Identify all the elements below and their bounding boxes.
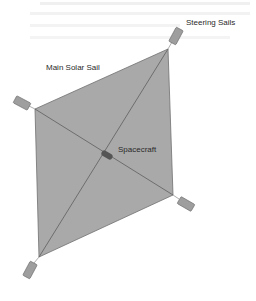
label-steering-sails: Steering Sails — [186, 18, 235, 27]
label-spacecraft: Spacecraft — [118, 145, 157, 154]
steering-sail-right — [177, 197, 195, 212]
tether-top — [168, 42, 172, 49]
tether-right — [173, 195, 179, 199]
tether-bottom — [34, 257, 39, 263]
diagram-canvas: Steering Sails Main Solar Sail Spacecraf… — [0, 0, 256, 301]
steering-sail-left — [13, 96, 31, 111]
label-main-solar-sail: Main Solar Sail — [46, 63, 100, 72]
steering-sail-bottom — [23, 261, 38, 279]
tether-left — [29, 106, 35, 109]
solar-sail-diagram: Steering Sails Main Solar Sail Spacecraf… — [0, 0, 256, 301]
